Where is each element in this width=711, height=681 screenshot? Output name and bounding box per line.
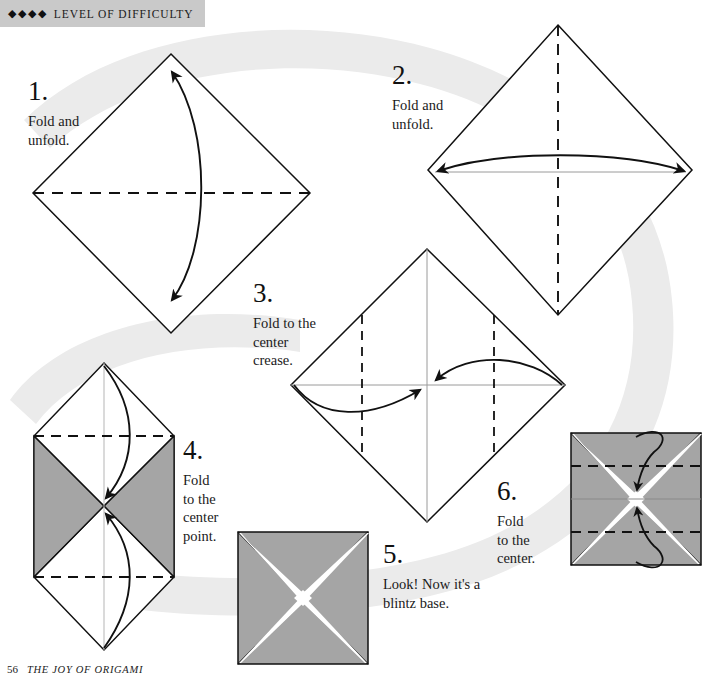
step-text-3: Fold to the center crease. (253, 314, 316, 370)
page-number: 56 (7, 663, 18, 675)
step-text-2: Fold and unfold. (392, 96, 443, 133)
step-number-2: 2. (392, 62, 443, 89)
figure-step-6 (571, 432, 702, 568)
difficulty-banner: ◆◆◆◆ LEVEL OF DIFFICULTY (0, 0, 205, 27)
step-number-5: 5. (383, 541, 480, 568)
figure-step-4 (34, 363, 174, 650)
step-number-3: 3. (253, 280, 316, 307)
origami-instruction-page: ◆◆◆◆ LEVEL OF DIFFICULTY 1. Fold and unf… (0, 0, 711, 681)
step-text-6: Fold to the center. (497, 512, 535, 568)
step-caption-3: 3. Fold to the center crease. (253, 280, 316, 370)
difficulty-label: LEVEL OF DIFFICULTY (54, 8, 194, 20)
step-caption-5: 5. Look! Now it's a blintz base. (383, 541, 480, 612)
figure-step-5 (238, 532, 369, 664)
step-text-4: Fold to the center point. (183, 471, 218, 545)
book-title: THE JOY OF ORIGAMI (27, 664, 143, 675)
step-caption-2: 2. Fold and unfold. (392, 62, 443, 133)
page-footer: 56 THE JOY OF ORIGAMI (7, 663, 143, 675)
difficulty-diamonds-icon: ◆◆◆◆ (8, 8, 48, 19)
step-caption-1: 1. Fold and unfold. (28, 78, 79, 149)
origami-figures (0, 0, 711, 681)
step-number-1: 1. (28, 78, 79, 105)
step-text-1: Fold and unfold. (28, 112, 79, 149)
step-caption-4: 4. Fold to the center point. (183, 437, 218, 545)
step-text-5: Look! Now it's a blintz base. (383, 575, 480, 612)
step-number-6: 6. (497, 478, 535, 505)
figure-step-2 (428, 25, 692, 315)
step-caption-6: 6. Fold to the center. (497, 478, 535, 568)
step-number-4: 4. (183, 437, 218, 464)
